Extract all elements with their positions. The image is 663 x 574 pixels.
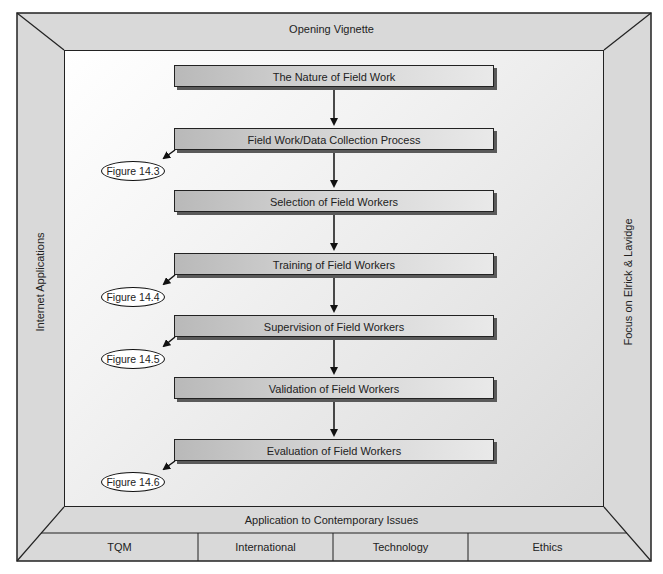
step-validation: Validation of Field Workers bbox=[174, 377, 494, 399]
contemporary-issues-label: Application to Contemporary Issues bbox=[0, 514, 663, 526]
figure-ref-14-3: Figure 14.3 bbox=[101, 161, 165, 181]
cell-tqm: TQM bbox=[41, 533, 198, 561]
internet-applications-label: Internet Applications bbox=[34, 232, 46, 331]
cell-international: International bbox=[198, 533, 333, 561]
opening-vignette-label: Opening Vignette bbox=[0, 23, 663, 35]
figure-ref-14-6: Figure 14.6 bbox=[101, 472, 165, 492]
cell-ethics: Ethics bbox=[468, 533, 627, 561]
figure-ref-14-5: Figure 14.5 bbox=[101, 349, 165, 369]
step-data-collection-process: Field Work/Data Collection Process bbox=[174, 128, 494, 150]
cell-technology: Technology bbox=[333, 533, 468, 561]
step-nature-of-field-work: The Nature of Field Work bbox=[174, 65, 494, 87]
step-selection: Selection of Field Workers bbox=[174, 190, 494, 212]
focus-label: Focus on Elrick & Lavidge bbox=[622, 218, 634, 345]
figure-ref-14-4: Figure 14.4 bbox=[101, 287, 165, 307]
step-training: Training of Field Workers bbox=[174, 253, 494, 275]
step-evaluation: Evaluation of Field Workers bbox=[174, 439, 494, 461]
step-supervision: Supervision of Field Workers bbox=[174, 315, 494, 337]
